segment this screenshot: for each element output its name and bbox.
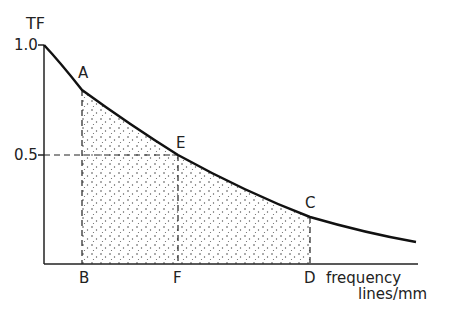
point-d-label: D xyxy=(304,271,316,286)
y-tick-05: 0.5 xyxy=(14,148,38,163)
point-f-label: F xyxy=(173,271,182,286)
point-b-label: B xyxy=(79,271,89,286)
point-a-label: A xyxy=(78,66,88,81)
x-axis-label-line2: lines/mm xyxy=(358,287,427,302)
shaded-area xyxy=(82,90,310,264)
point-c-label: C xyxy=(305,196,315,211)
y-tick-1: 1.0 xyxy=(14,38,38,53)
y-axis-label: TF xyxy=(26,16,45,32)
x-axis-label-line1: frequency xyxy=(326,271,401,286)
point-e-label: E xyxy=(176,136,185,151)
